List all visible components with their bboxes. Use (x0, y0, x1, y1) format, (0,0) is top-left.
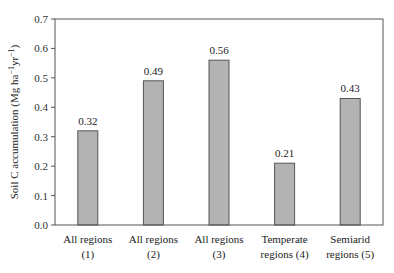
y-tick-label: 0.7 (34, 13, 48, 25)
y-axis-title: Soil C accumulation (Mg ha−1yr−1) (7, 44, 21, 199)
bar-value-label: 0.56 (209, 44, 229, 56)
x-category-label: All regions (129, 233, 178, 245)
y-tick-label: 0.6 (34, 42, 48, 54)
y-tick-label: 0.0 (34, 219, 48, 231)
x-axis-category-labels: All regions(1)All regions(2)All regions(… (63, 233, 374, 261)
bar (209, 60, 229, 225)
x-category-label: regions (4) (261, 248, 309, 261)
bar-value-label: 0.21 (275, 147, 294, 159)
bar (275, 163, 295, 225)
y-tick-label: 0.1 (34, 190, 48, 202)
x-category-label: (2) (147, 248, 160, 261)
bars: 0.320.490.560.210.43 (78, 44, 361, 225)
bar-value-label: 0.49 (144, 65, 164, 77)
bar (78, 131, 98, 225)
y-tick-label: 0.5 (34, 72, 48, 84)
x-category-label: All regions (63, 233, 112, 245)
bar-chart: 0.00.10.20.30.40.50.60.7 0.320.490.560.2… (0, 0, 394, 273)
bar-value-label: 0.43 (341, 82, 361, 94)
y-tick-label: 0.3 (34, 131, 48, 143)
x-category-label: Semiarid (330, 233, 370, 245)
y-tick-label: 0.4 (34, 101, 48, 113)
x-category-label: Temperate (261, 233, 307, 245)
x-category-label: (3) (213, 248, 226, 261)
y-axis-ticks: 0.00.10.20.30.40.50.60.7 (34, 13, 55, 231)
bar (340, 98, 360, 225)
x-category-label: regions (5) (326, 248, 374, 261)
bar-value-label: 0.32 (78, 115, 97, 127)
y-tick-label: 0.2 (34, 160, 48, 172)
x-category-label: (1) (81, 248, 94, 261)
bar (143, 81, 163, 225)
x-category-label: All regions (194, 233, 243, 245)
